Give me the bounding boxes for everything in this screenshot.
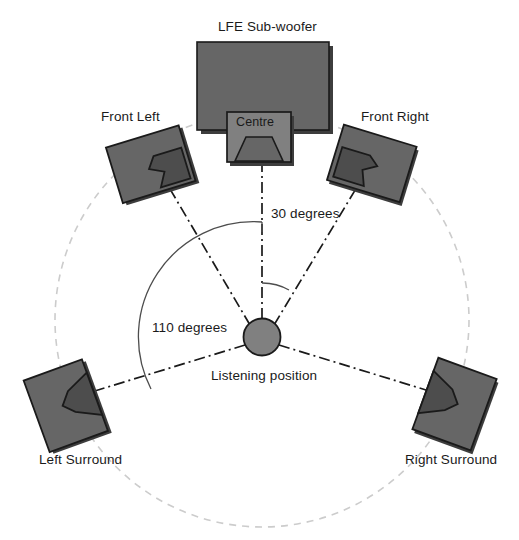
angle-30-label: 30 degrees [271, 206, 340, 221]
front-left-speaker [106, 125, 199, 206]
right-surround-speaker [411, 358, 499, 454]
angle-arc-30 [262, 283, 289, 290]
front-left-label: Front Left [101, 109, 160, 124]
axis-line-front-right [274, 172, 366, 325]
axis-line-front-left [160, 172, 250, 325]
listening-position-label: Listening position [211, 368, 317, 383]
angle-arc-110 [138, 222, 262, 389]
left-surround-label: Left Surround [39, 452, 122, 467]
centre-label: Centre [236, 115, 274, 129]
angle-110-label: 110 degrees [152, 320, 227, 335]
right-surround-label: Right Surround [405, 452, 497, 467]
speaker-placement-diagram: LFE Sub-woofer Front Left Front Right Ce… [0, 0, 519, 540]
front-right-label: Front Right [361, 109, 429, 124]
subwoofer-label: LFE Sub-woofer [218, 19, 317, 34]
listening-position-marker [244, 319, 281, 356]
left-surround-speaker [24, 358, 112, 454]
front-right-speaker [326, 125, 419, 206]
